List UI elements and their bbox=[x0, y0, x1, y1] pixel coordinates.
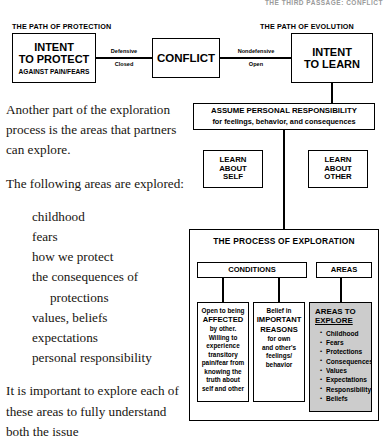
areas-to-explore-box: AREAS TO EXPLORE Childhood Fears Protect… bbox=[309, 302, 372, 412]
list-item: how we protect bbox=[6, 247, 184, 267]
list-item: Protections bbox=[321, 347, 371, 356]
paragraph-3: It is important to explore each of these… bbox=[6, 381, 184, 442]
reasons-post-text: for own and other's feelings/ behavior bbox=[256, 335, 302, 369]
list-item: values, beliefs bbox=[6, 308, 184, 328]
areas-to-explore-title-line2: EXPLORE bbox=[315, 316, 353, 325]
learn-about-other-text: LEARN ABOUT OTHER bbox=[324, 156, 352, 182]
paragraph-2: The following areas are explored: bbox=[6, 174, 184, 194]
list-item: expectations bbox=[6, 328, 184, 348]
open-label: Open bbox=[224, 61, 288, 67]
conflict-box: CONFLICT bbox=[152, 38, 220, 78]
conditions-box: CONDITIONS bbox=[197, 262, 307, 278]
learn-about-self-text: LEARN ABOUT SELF bbox=[219, 156, 247, 182]
page-canvas: THE THIRD PASSAGE: CONFLICT THE PATH OF … bbox=[0, 0, 385, 445]
intent-to-protect-box: INTENT TO PROTECT AGAINST PAIN/FEARS bbox=[12, 33, 96, 83]
list-item: childhood bbox=[6, 207, 184, 227]
list-item: fears bbox=[6, 227, 184, 247]
path-of-protection-label: THE PATH OF PROTECTION bbox=[12, 22, 111, 31]
list-item: Childhood bbox=[321, 329, 371, 338]
assume-responsibility-subtext: for feelings, behavior, and consequences bbox=[212, 118, 355, 126]
intent-to-learn-line1: INTENT bbox=[312, 46, 352, 58]
connector-learn-to-responsibility bbox=[331, 83, 333, 103]
intent-to-protect-line3: AGAINST PAIN/FEARS bbox=[19, 68, 90, 75]
running-head: THE THIRD PASSAGE: CONFLICT bbox=[265, 0, 383, 6]
intent-to-protect-line2: TO PROTECT bbox=[19, 53, 90, 65]
list-item: Fears bbox=[321, 338, 371, 347]
intent-to-learn-line2: TO LEARN bbox=[304, 58, 360, 70]
areas-to-explore-title-line1: AREAS TO bbox=[315, 307, 356, 316]
connector-areas-explore bbox=[340, 278, 342, 302]
list-item: Beliefs bbox=[321, 394, 371, 403]
list-item: protections bbox=[6, 288, 184, 308]
connector-conditions-affected bbox=[222, 278, 224, 302]
reasons-emphasis-line2: REASONS bbox=[256, 325, 302, 335]
list-item: Responsibility bbox=[321, 385, 371, 394]
path-of-evolution-label: THE PATH OF EVOLUTION bbox=[260, 22, 354, 31]
areas-to-explore-title: AREAS TO EXPLORE bbox=[315, 307, 371, 326]
list-item: personal responsibility bbox=[6, 348, 184, 368]
list-item: Values bbox=[321, 366, 371, 375]
central-spine-line bbox=[283, 130, 285, 229]
learn-about-self-box: LEARN ABOUT SELF bbox=[203, 150, 263, 188]
belief-in-important-reasons-box: Belief in IMPORTANT REASONS for own and … bbox=[253, 302, 305, 402]
affected-post-text: by other. Willing to experience transito… bbox=[200, 325, 246, 393]
defensive-label: Defensive bbox=[98, 48, 150, 54]
reasons-pre-text: Belief in bbox=[256, 307, 302, 315]
connector-conditions-reasons bbox=[278, 278, 280, 302]
process-of-exploration-title: THE PROCESS OF EXPLORATION bbox=[189, 236, 379, 246]
learn-about-other-box: LEARN ABOUT OTHER bbox=[308, 150, 368, 188]
body-text-column: Another part of the exploration process … bbox=[6, 100, 184, 442]
list-item: the consequences of bbox=[6, 267, 184, 287]
connector-protect-conflict bbox=[96, 57, 152, 59]
affected-emphasis-text: AFFECTED bbox=[200, 315, 246, 325]
nondefensive-label: Nondefensive bbox=[224, 48, 288, 54]
areas-box: AREAS bbox=[316, 262, 372, 278]
explored-areas-list: childhood fears how we protect the conse… bbox=[6, 207, 184, 369]
assume-personal-responsibility-box: ASSUME PERSONAL RESPONSIBILITY for feeli… bbox=[193, 103, 375, 130]
affected-pre-text: Open to being bbox=[200, 307, 246, 315]
areas-to-explore-list: Childhood Fears Protections Consequences… bbox=[315, 329, 371, 404]
connector-conflict-learn bbox=[220, 57, 291, 59]
intent-to-learn-box: INTENT TO LEARN bbox=[291, 33, 373, 83]
closed-label: Closed bbox=[98, 61, 150, 67]
assume-responsibility-heading: ASSUME PERSONAL RESPONSIBILITY bbox=[211, 107, 357, 116]
reasons-emphasis-line1: IMPORTANT bbox=[256, 315, 302, 325]
list-item: Consequences bbox=[321, 357, 371, 366]
open-to-being-affected-box: Open to being AFFECTED by other. Willing… bbox=[197, 302, 249, 402]
list-item: Expectations bbox=[321, 375, 371, 384]
paragraph-1: Another part of the exploration process … bbox=[6, 100, 184, 161]
intent-to-protect-line1: INTENT bbox=[34, 41, 74, 53]
